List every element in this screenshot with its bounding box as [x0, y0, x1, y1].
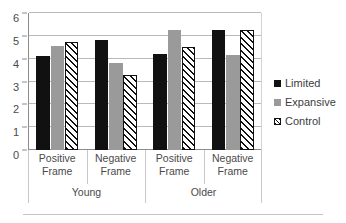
category-label-line1: Positive [145, 152, 204, 165]
bar-control-cat0 [65, 42, 79, 150]
category-label-line2: Frame [145, 165, 204, 178]
bar-control-cat2 [182, 47, 196, 150]
legend-item-limited: Limited [274, 74, 344, 93]
bar-limited-cat2 [153, 54, 167, 150]
y-tick-mark-1 [22, 127, 27, 128]
bar-expansive-cat3 [226, 55, 240, 150]
group-axis-labels: YoungOlder [28, 186, 262, 202]
y-tick-mark-3 [22, 81, 27, 82]
bar-control-cat3 [240, 30, 254, 150]
bar-limited-cat0 [36, 56, 50, 150]
category-label-line1: Negative [87, 152, 146, 165]
category-label-0: PositiveFrame [28, 152, 87, 178]
bar-expansive-cat2 [168, 30, 182, 150]
category-label-3: NegativeFrame [204, 152, 263, 178]
category-label-line1: Negative [204, 152, 263, 165]
category-label-line2: Frame [87, 165, 146, 178]
y-tick-mark-2 [22, 104, 27, 105]
bar-limited-cat1 [95, 40, 109, 150]
chart-legend: LimitedExpansiveControl [274, 74, 344, 131]
group-label-older: Older [145, 186, 262, 199]
group-label-young: Young [28, 186, 145, 199]
category-label-2: PositiveFrame [145, 152, 204, 178]
category-axis-labels: PositiveFrameNegativeFramePositiveFrameN… [28, 152, 262, 184]
legend-label: Expansive [285, 97, 336, 108]
bottom-divider [23, 214, 323, 215]
category-label-line1: Positive [28, 152, 87, 165]
y-tick-mark-6 [22, 13, 27, 14]
legend-item-expansive: Expansive [274, 93, 344, 112]
category-label-line2: Frame [204, 165, 263, 178]
bar-expansive-cat1 [109, 63, 123, 150]
bar-limited-cat3 [212, 30, 226, 150]
bar-expansive-cat0 [51, 46, 65, 150]
y-tick-mark-4 [22, 58, 27, 59]
legend-item-control: Control [274, 112, 344, 131]
legend-swatch-limited-icon [274, 80, 281, 87]
category-label-1: NegativeFrame [87, 152, 146, 178]
bar-chart-figure: 0123456 PositiveFrameNegativeFramePositi… [0, 0, 346, 223]
y-axis: 0123456 [0, 13, 24, 150]
legend-swatch-expansive-icon [274, 99, 281, 106]
y-tick-mark-0 [22, 150, 27, 151]
legend-label: Limited [285, 78, 320, 89]
bar-control-cat1 [123, 75, 137, 150]
y-tick-mark-5 [22, 35, 27, 36]
category-label-line2: Frame [28, 165, 87, 178]
legend-label: Control [285, 116, 320, 127]
bars-layer [28, 13, 262, 150]
legend-swatch-control-icon [274, 118, 281, 125]
